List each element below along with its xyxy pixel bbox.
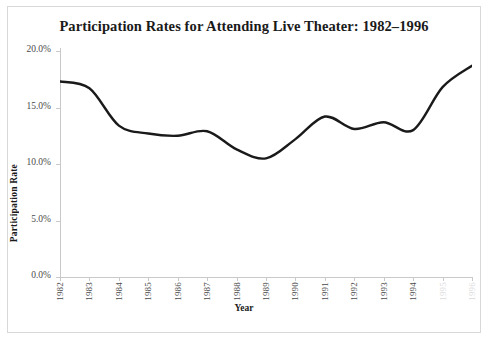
x-tick-label: 1988 [232, 282, 242, 301]
x-tick-mark [207, 277, 208, 281]
x-tick-label: 1993 [379, 282, 389, 301]
x-tick-label: 1984 [114, 282, 124, 301]
y-tick-label: 5.0% [31, 214, 51, 224]
x-tick-mark [89, 277, 90, 281]
x-tick-mark [295, 277, 296, 281]
x-tick-label: 1991 [320, 282, 330, 301]
x-tick-mark [148, 277, 149, 281]
x-tick-mark [237, 277, 238, 281]
y-tick-label: 15.0% [26, 101, 51, 111]
x-tick-mark [325, 277, 326, 281]
x-tick-label: 1992 [349, 282, 359, 301]
x-tick-mark [178, 277, 179, 281]
plot-area [60, 51, 472, 277]
x-tick-mark [266, 277, 267, 281]
participation-rate-line [60, 66, 472, 159]
y-tick-label: 20.0% [26, 44, 51, 54]
y-tick-label: 10.0% [26, 157, 51, 167]
x-tick-label: 1995 [438, 282, 448, 301]
x-tick-mark [413, 277, 414, 281]
x-tick-mark [443, 277, 444, 281]
y-axis-label: Participation Rate [9, 164, 19, 242]
x-tick-label: 1983 [84, 282, 94, 301]
x-tick-label: 1987 [202, 282, 212, 301]
y-tick-label: 0.0% [31, 270, 51, 280]
x-tick-mark [472, 277, 473, 281]
x-tick-label: 1994 [408, 282, 418, 301]
x-tick-label: 1982 [55, 282, 65, 301]
x-tick-mark [119, 277, 120, 281]
x-tick-label: 1990 [290, 282, 300, 301]
x-axis-label: Year [0, 303, 488, 313]
x-tick-label: 1989 [261, 282, 271, 301]
x-tick-label: 1996 [467, 282, 477, 301]
x-tick-mark [384, 277, 385, 281]
x-tick-label: 1986 [173, 282, 183, 301]
x-tick-label: 1985 [143, 282, 153, 301]
line-series-svg [60, 51, 472, 277]
x-tick-mark [354, 277, 355, 281]
chart-title: Participation Rates for Attending Live T… [0, 18, 488, 35]
x-tick-mark [60, 277, 61, 281]
